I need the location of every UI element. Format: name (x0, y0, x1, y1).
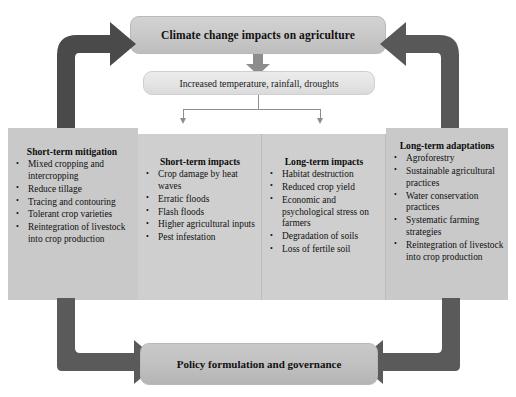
list-item: Pest infestation (142, 232, 258, 244)
driver-text: Increased temperature, rainfall, drought… (179, 78, 338, 89)
list-item: Reintegration of livestock into crop pro… (12, 222, 132, 246)
column-long-term-adaptations: Long-term adaptations Agroforestry Susta… (386, 128, 508, 300)
column-list: Agroforestry Sustainable agricultural pr… (390, 153, 504, 264)
list-item: Crop damage by heat waves (142, 169, 258, 193)
list-item: Systematic farming strategies (390, 215, 504, 239)
list-item: Habitat destruction (266, 169, 382, 181)
branch-arrowhead-right-icon (317, 118, 323, 124)
diagram-canvas: Climate change impacts on agriculture In… (0, 0, 516, 397)
list-item: Reduce tillage (12, 184, 132, 196)
outcome-text: Policy formulation and governance (177, 358, 342, 370)
column-long-term-impacts: Long-term impacts Habitat destruction Re… (262, 134, 386, 300)
column-heading: Short-term impacts (142, 156, 258, 167)
elbow-arrow-top-right-icon (378, 13, 494, 133)
column-heading: Long-term impacts (266, 156, 382, 167)
column-heading: Short-term mitigation (12, 146, 132, 157)
list-item: Tolerant crop varieties (12, 209, 132, 221)
list-item: Water conservation practices (390, 191, 504, 215)
list-item: Flash floods (142, 207, 258, 219)
list-item: Reduced crop yield (266, 182, 382, 194)
list-item: Degradation of soils (266, 231, 382, 243)
branch-stem (258, 95, 259, 110)
title-text: Climate change impacts on agriculture (161, 29, 355, 41)
column-list: Crop damage by heat waves Erratic floods… (142, 169, 258, 244)
title-box: Climate change impacts on agriculture (130, 16, 386, 54)
list-item: Economic and psychological stress on far… (266, 195, 382, 231)
column-list: Habitat destruction Reduced crop yield E… (266, 169, 382, 256)
branch-crossbar (183, 109, 321, 110)
column-short-term-impacts: Short-term impacts Crop damage by heat w… (138, 134, 262, 300)
list-item: Erratic floods (142, 194, 258, 206)
column-heading: Long-term adaptations (390, 140, 504, 151)
driver-box: Increased temperature, rainfall, drought… (143, 71, 375, 95)
list-item: Loss of fertile soil (266, 244, 382, 256)
column-short-term-mitigation: Short-term mitigation Mixed cropping and… (8, 128, 138, 300)
list-item: Agroforestry (390, 153, 504, 165)
list-item: Sustainable agricultural practices (390, 166, 504, 190)
outcome-box: Policy formulation and governance (140, 343, 378, 385)
list-item: Tracing and contouring (12, 197, 132, 209)
list-item: Reintegration of livestock into crop pro… (390, 240, 504, 264)
list-item: Higher agricultural inputs (142, 219, 258, 231)
branch-arrowhead-left-icon (180, 118, 186, 124)
column-list: Mixed cropping and intercropping Reduce … (12, 159, 132, 246)
list-item: Mixed cropping and intercropping (12, 159, 132, 183)
elbow-arrow-top-left-icon (22, 13, 138, 133)
